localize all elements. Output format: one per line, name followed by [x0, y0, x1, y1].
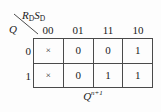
column-variable-label: RDSD: [22, 10, 45, 21]
caption-superscript: n+1: [91, 89, 103, 97]
row-header: 0: [14, 38, 31, 63]
row-variable-label: Q: [9, 24, 17, 35]
kmap-output-caption: Qn+1: [33, 90, 153, 103]
column-header: 00: [33, 24, 63, 36]
column-header: 01: [63, 24, 93, 36]
caption-base: Q: [83, 90, 91, 102]
kmap-cell: ×: [34, 64, 63, 88]
kmap-grid: × 0 0 1 × 0 1 1: [33, 38, 153, 88]
kmap-cell: 0: [93, 39, 123, 63]
kmap-figure: RDSD Q 00 01 11 10 0 1 × 0 0 1 × 0 1 1 Q…: [0, 0, 161, 112]
kmap-column-header-row: 00 01 11 10: [33, 24, 153, 36]
column-variable-r-subscript: D: [29, 14, 34, 23]
kmap-cell: 1: [122, 64, 152, 88]
column-header: 11: [93, 24, 123, 36]
column-header: 10: [123, 24, 153, 36]
kmap-cell: 1: [122, 39, 152, 63]
kmap-row-header-column: 0 1: [14, 38, 31, 88]
row-header: 1: [14, 63, 31, 88]
kmap-cell: 0: [63, 39, 93, 63]
column-variable-s: S: [34, 9, 40, 21]
kmap-cell: ×: [34, 39, 63, 63]
column-variable-s-subscript: D: [40, 14, 45, 23]
kmap-cell: 1: [93, 64, 123, 88]
kmap-cell: 0: [63, 64, 93, 88]
table-row: × 0 1 1: [34, 63, 152, 88]
column-variable-r: R: [22, 9, 29, 21]
table-row: × 0 0 1: [34, 39, 152, 63]
